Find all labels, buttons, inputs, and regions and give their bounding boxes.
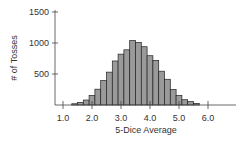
histogram-bar <box>101 81 107 105</box>
y-ticks: 50010001500 <box>29 7 58 79</box>
histogram-bar <box>153 60 159 105</box>
y-tick-label: 1500 <box>29 7 49 17</box>
x-tick-label: 4.0 <box>144 113 157 123</box>
bars-group <box>72 41 200 105</box>
histogram-bar <box>107 72 113 105</box>
x-tick-label: 6.0 <box>202 113 215 123</box>
histogram-bar <box>118 54 124 105</box>
y-tick-label: 1000 <box>29 38 49 48</box>
histogram-bar <box>124 50 130 105</box>
histogram-bar <box>182 100 188 105</box>
histogram-bar <box>112 61 118 105</box>
histogram-bar <box>159 71 165 105</box>
x-tick-label: 2.0 <box>86 113 99 123</box>
histogram-chart: 50010001500 1.02.03.04.05.06.0 5-Dice Av… <box>0 0 245 144</box>
histogram-bar <box>170 90 176 106</box>
x-tick-label: 5.0 <box>173 113 186 123</box>
histogram-bar <box>83 100 89 105</box>
x-axis-label: 5-Dice Average <box>115 125 176 135</box>
histogram-bar <box>95 89 101 105</box>
histogram-bar <box>130 41 136 105</box>
histogram-bar <box>141 47 147 105</box>
histogram-bar <box>188 102 194 105</box>
y-tick-label: 500 <box>34 69 49 79</box>
histogram-bar <box>165 79 171 105</box>
x-tick-label: 3.0 <box>115 113 128 123</box>
y-axis-label: # of Tosses <box>9 35 19 81</box>
x-tick-label: 1.0 <box>57 113 70 123</box>
histogram-bar <box>147 56 153 105</box>
histogram-bar <box>136 42 142 105</box>
